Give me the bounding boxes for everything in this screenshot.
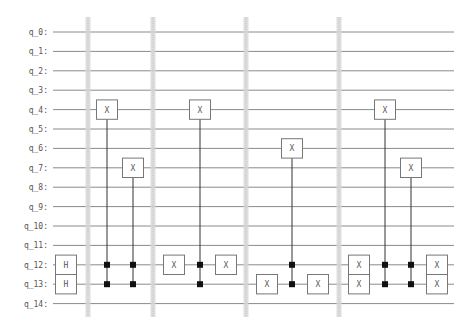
gate-label: X xyxy=(131,164,136,173)
gate-label: X xyxy=(224,261,229,270)
x-gate: X xyxy=(216,255,237,274)
qubit-labels: q_0:q_1:q_2:q_3:q_4:q_5:q_6:q_7:q_8:q_9:… xyxy=(24,28,48,309)
control-dot xyxy=(197,281,203,287)
x-gate: X xyxy=(427,255,448,274)
x-gate: X xyxy=(190,100,211,119)
gate-label: X xyxy=(198,106,203,115)
x-gate: X xyxy=(401,158,422,177)
qubit-wires xyxy=(53,32,454,304)
hadamard-gate: H xyxy=(56,275,77,294)
control-dot xyxy=(289,281,295,287)
qubit-label: q_3: xyxy=(29,86,48,95)
gate-label: X xyxy=(409,164,414,173)
gate-label: X xyxy=(383,106,388,115)
control-dot xyxy=(382,262,388,268)
x-gate: X xyxy=(164,255,185,274)
gate-label: X xyxy=(290,144,295,153)
qubit-label: q_2: xyxy=(29,67,48,76)
gate-label: H xyxy=(64,261,69,270)
gate-label: X xyxy=(357,261,362,270)
x-gate: X xyxy=(349,255,370,274)
control-dot xyxy=(130,262,136,268)
gate-label: H xyxy=(64,280,69,289)
control-dot xyxy=(197,262,203,268)
gate-label: X xyxy=(357,280,362,289)
control-dot xyxy=(382,281,388,287)
qubit-label: q_13: xyxy=(24,280,48,289)
x-gate: X xyxy=(427,275,448,294)
qubit-label: q_1: xyxy=(29,47,48,56)
control-dot xyxy=(104,281,110,287)
qubit-label: q_14: xyxy=(24,300,48,309)
x-gate: X xyxy=(349,275,370,294)
qubit-label: q_11: xyxy=(24,241,48,250)
control-dot xyxy=(289,262,295,268)
qubit-label: q_7: xyxy=(29,164,48,173)
qubit-label: q_10: xyxy=(24,222,48,231)
control-dot xyxy=(408,281,414,287)
control-dot xyxy=(104,262,110,268)
quantum-circuit-diagram: q_0:q_1:q_2:q_3:q_4:q_5:q_6:q_7:q_8:q_9:… xyxy=(0,0,476,336)
control-dot xyxy=(130,281,136,287)
gate-label: X xyxy=(265,280,270,289)
gate-label: X xyxy=(316,280,321,289)
qubit-label: q_8: xyxy=(29,183,48,192)
qubit-label: q_12: xyxy=(24,261,48,270)
qubit-label: q_5: xyxy=(29,125,48,134)
qubit-label: q_6: xyxy=(29,144,48,153)
x-gate: X xyxy=(97,100,118,119)
x-gate: X xyxy=(375,100,396,119)
qubit-label: q_4: xyxy=(29,106,48,115)
qubit-label: q_9: xyxy=(29,203,48,212)
gate-label: X xyxy=(435,261,440,270)
x-gate: X xyxy=(257,275,278,294)
gate-label: X xyxy=(172,261,177,270)
gate-label: X xyxy=(435,280,440,289)
gate-label: X xyxy=(105,106,110,115)
x-gate: X xyxy=(123,158,144,177)
x-gate: X xyxy=(308,275,329,294)
x-gate: X xyxy=(282,139,303,158)
hadamard-gate: H xyxy=(56,255,77,274)
control-dot xyxy=(408,262,414,268)
qubit-label: q_0: xyxy=(29,28,48,37)
